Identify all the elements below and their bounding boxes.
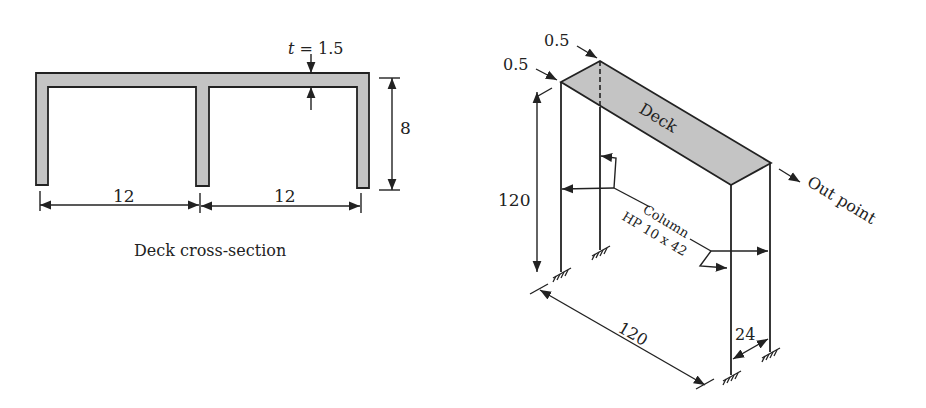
offset-back-arrow [577, 46, 597, 58]
deck-section-shape [36, 73, 369, 188]
length-ext-right [696, 379, 714, 389]
thickness-label: t = 1.5 [288, 39, 343, 58]
fixed-support-icon [762, 348, 780, 362]
span-right-label: 12 [274, 186, 296, 206]
out-point-label: Out point [804, 172, 880, 228]
span-left-label: 12 [113, 186, 135, 206]
offset-front-arrow [536, 69, 557, 80]
diagram-canvas: t = 1.5 8 12 12 Deck cross-section 0.5 0… [0, 0, 926, 408]
height-ext-top [538, 88, 552, 96]
offset-front-label: 0.5 [503, 55, 528, 74]
frame-width-label: 24 [735, 325, 755, 344]
fixed-support-icon [723, 371, 741, 385]
fixed-support-icon [553, 268, 571, 282]
frame-length-label: 120 [615, 318, 651, 350]
frame-height-label: 120 [498, 190, 530, 210]
out-point-arrow [779, 169, 800, 182]
offset-back-label: 0.5 [544, 31, 569, 50]
fixed-support-icon [592, 246, 610, 260]
cross-section-title: Deck cross-section [134, 241, 286, 260]
section-height-label: 8 [400, 118, 411, 138]
deck-cross-section [36, 54, 400, 213]
